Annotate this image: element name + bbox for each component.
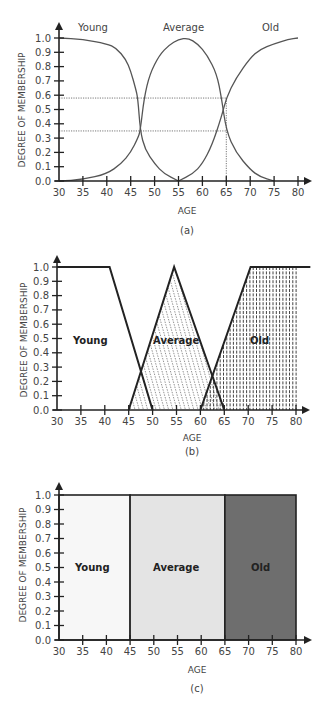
x-tick-label: 65 [218, 416, 231, 427]
x-tick-label: 35 [76, 646, 89, 657]
chart-a-caption: (a) [180, 225, 194, 236]
x-tick-label: 65 [219, 646, 232, 657]
chart-a-smooth-membership: 0.00.10.20.30.40.50.60.70.80.91.03035404… [17, 22, 308, 236]
y-tick-label: 1.0 [35, 33, 51, 44]
y-tick-label: 0.9 [35, 47, 51, 58]
chart-a-label-young: Young [77, 22, 108, 33]
chart-b-label-young: Young [72, 335, 108, 346]
x-tick-label: 30 [51, 416, 64, 427]
y-tick-label: 0.2 [33, 376, 49, 387]
x-tick-label: 65 [220, 187, 233, 198]
x-tick-label: 70 [244, 187, 257, 198]
chart-b-label-average: Average [153, 335, 200, 346]
x-tick-label: 70 [242, 416, 255, 427]
y-tick-label: 0.1 [35, 161, 51, 172]
chart-a-y-axis-title: DEGREE OF MEMBERSHIP [17, 52, 27, 168]
x-tick-label: 50 [146, 416, 159, 427]
x-tick-label: 60 [194, 416, 207, 427]
y-tick-label: 0.5 [33, 333, 49, 344]
y-tick-label: 0.2 [35, 147, 51, 158]
y-tick-label: 0.3 [35, 133, 51, 144]
curve-young [59, 38, 179, 181]
chart-c-caption: (c) [190, 683, 203, 694]
chart-c-crisp-sets: 0.00.10.20.30.40.50.60.70.80.91.03035404… [18, 486, 308, 694]
y-tick-label: 0.6 [33, 319, 49, 330]
x-tick-label: 75 [268, 187, 281, 198]
x-tick-label: 70 [242, 646, 255, 657]
y-tick-label: 0.1 [35, 620, 51, 631]
x-tick-label: 55 [171, 646, 184, 657]
y-tick-label: 0.5 [35, 104, 51, 115]
x-tick-label: 75 [266, 416, 279, 427]
chart-a-label-average: Average [163, 22, 204, 33]
chart-b-old-hatch [200, 267, 296, 410]
curve-average [59, 39, 274, 181]
x-tick-label: 45 [122, 416, 135, 427]
chart-c-y-axis-title: DEGREE OF MEMBERSHIP [18, 507, 28, 623]
y-tick-label: 0.0 [33, 405, 49, 416]
chart-c-x-axis-title: AGE [188, 665, 207, 675]
chart-b-x-axis-title: AGE [183, 433, 202, 443]
chart-a-x-axis-title: AGE [178, 206, 197, 216]
x-tick-label: 60 [195, 646, 208, 657]
y-tick-label: 0.7 [33, 304, 49, 315]
y-tick-label: 0.4 [35, 118, 51, 129]
y-tick-label: 1.0 [33, 262, 49, 273]
y-tick-label: 0.8 [33, 290, 49, 301]
y-tick-label: 0.0 [35, 635, 51, 646]
chart-b-y-axis-title: DEGREE OF MEMBERSHIP [19, 282, 29, 398]
x-tick-label: 80 [290, 646, 303, 657]
y-tick-label: 0.8 [35, 519, 51, 530]
y-tick-label: 0.2 [35, 606, 51, 617]
y-tick-label: 0.9 [35, 504, 51, 515]
y-tick-label: 0.4 [33, 347, 49, 358]
x-tick-label: 50 [147, 646, 160, 657]
chart-b-caption: (b) [185, 446, 199, 457]
y-tick-label: 1.0 [35, 490, 51, 501]
y-tick-label: 0.7 [35, 533, 51, 544]
chart-c-label-average: Average [153, 562, 200, 573]
x-tick-label: 35 [75, 416, 88, 427]
y-tick-label: 0.3 [33, 362, 49, 373]
y-tick-label: 0.0 [35, 176, 51, 187]
x-tick-label: 75 [266, 646, 279, 657]
y-tick-label: 0.6 [35, 90, 51, 101]
x-tick-label: 40 [98, 416, 111, 427]
y-tick-label: 0.6 [35, 548, 51, 559]
x-tick-label: 45 [124, 187, 137, 198]
x-tick-label: 40 [100, 646, 113, 657]
chart-c-label-old: Old [251, 562, 270, 573]
x-tick-label: 45 [124, 646, 137, 657]
x-tick-label: 35 [77, 187, 90, 198]
chart-b-label-old: Old [250, 335, 269, 346]
x-tick-label: 50 [148, 187, 161, 198]
y-tick-label: 0.4 [35, 577, 51, 588]
chart-a-label-old: Old [262, 22, 279, 33]
x-tick-label: 30 [53, 187, 66, 198]
y-tick-label: 0.5 [35, 562, 51, 573]
x-tick-label: 55 [170, 416, 183, 427]
x-tick-label: 80 [292, 187, 305, 198]
y-tick-label: 0.7 [35, 75, 51, 86]
chart-b-trapezoid-membership: 0.00.10.20.30.40.50.60.70.80.91.03035404… [19, 259, 310, 457]
y-tick-label: 0.9 [33, 276, 49, 287]
x-tick-label: 30 [53, 646, 66, 657]
y-tick-label: 0.8 [35, 61, 51, 72]
fuzzy-membership-figure: 0.00.10.20.30.40.50.60.70.80.91.03035404… [0, 0, 331, 705]
x-tick-label: 40 [100, 187, 113, 198]
chart-a-curves [59, 38, 298, 181]
y-tick-label: 0.1 [33, 390, 49, 401]
x-tick-label: 80 [290, 416, 303, 427]
curve-old [179, 38, 299, 181]
chart-c-label-young: Young [74, 562, 110, 573]
x-tick-label: 60 [196, 187, 209, 198]
y-tick-label: 0.3 [35, 591, 51, 602]
chart-a-axes: 0.00.10.20.30.40.50.60.70.80.91.03035404… [35, 26, 308, 198]
x-tick-label: 55 [172, 187, 185, 198]
